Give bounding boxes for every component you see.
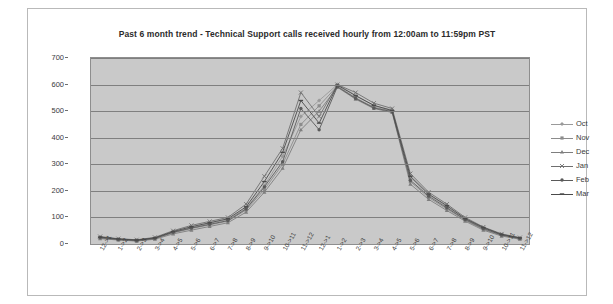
data-point — [372, 105, 376, 106]
legend-label: Oct — [576, 119, 588, 129]
legend-item-nov[interactable]: Nov — [551, 131, 609, 145]
legend-item-jan[interactable]: Jan — [551, 159, 609, 173]
data-point — [317, 122, 321, 123]
data-point — [408, 176, 412, 177]
y-axis-tick — [65, 190, 68, 191]
chart-title: Past 6 month trend - Technical Support c… — [28, 29, 586, 39]
chart-legend: OctNovDecJanFebMar — [551, 117, 609, 201]
chart-svg — [91, 58, 529, 244]
legend-label: Mar — [576, 189, 589, 199]
legend-marker-icon — [551, 189, 573, 199]
data-point — [560, 136, 563, 139]
data-point — [244, 206, 248, 207]
data-point — [98, 236, 102, 237]
y-axis-tick — [65, 84, 68, 85]
legend-label: Dec — [576, 147, 589, 157]
y-axis-tick — [65, 216, 68, 217]
data-point — [171, 231, 175, 232]
data-point — [560, 193, 564, 194]
y-axis-tick-label: 300 — [40, 159, 64, 168]
data-point — [481, 227, 485, 228]
data-point — [263, 185, 266, 188]
y-axis-tick-label: 700 — [40, 53, 64, 62]
y-axis-tick-label: 0 — [40, 239, 64, 248]
chart-frame: Past 6 month trend - Technical Support c… — [27, 8, 587, 296]
data-point — [560, 164, 564, 168]
y-axis-tick-label: 600 — [40, 79, 64, 88]
data-point — [318, 104, 321, 107]
gridline — [91, 85, 529, 86]
y-axis-tick-label: 100 — [40, 212, 64, 221]
data-point — [262, 181, 266, 182]
data-point — [354, 97, 357, 100]
data-point — [560, 122, 564, 126]
data-point — [281, 160, 284, 163]
data-point — [299, 123, 302, 126]
legend-marker-icon — [551, 161, 573, 171]
legend-item-feb[interactable]: Feb — [551, 173, 609, 187]
gridline — [91, 164, 529, 165]
data-point — [560, 178, 563, 181]
data-point — [518, 237, 522, 238]
data-point — [299, 107, 302, 110]
data-point — [317, 114, 321, 118]
legend-item-dec[interactable]: Dec — [551, 145, 609, 159]
data-point — [560, 150, 564, 154]
plot-area-wrapper: 0100200300400500600700 12->11->22->33->4… — [68, 57, 546, 263]
y-axis-tick-label: 500 — [40, 106, 64, 115]
y-axis-tick-label: 400 — [40, 132, 64, 141]
plot-area — [90, 57, 530, 245]
data-point — [280, 152, 284, 153]
data-point — [353, 95, 357, 96]
gridline — [91, 217, 529, 218]
legend-label: Nov — [576, 133, 589, 143]
gridline — [91, 111, 529, 112]
y-axis-tick — [65, 57, 68, 58]
gridline — [91, 58, 529, 59]
y-axis-tick — [65, 137, 68, 138]
legend-marker-icon — [551, 147, 573, 157]
data-point — [262, 174, 266, 178]
data-point — [372, 106, 375, 109]
data-point — [207, 222, 211, 223]
data-point — [299, 100, 303, 101]
data-point — [445, 205, 449, 206]
legend-label: Feb — [576, 175, 589, 185]
data-point — [153, 237, 157, 238]
legend-item-mar[interactable]: Mar — [551, 187, 609, 201]
legend-marker-icon — [551, 133, 573, 143]
y-axis: 0100200300400500600700 — [68, 57, 90, 243]
legend-marker-icon — [551, 119, 573, 129]
gridline — [91, 191, 529, 192]
legend-item-oct[interactable]: Oct — [551, 117, 609, 131]
x-axis: 12->11->22->33->44->55->66->77->88->99->… — [90, 246, 528, 286]
legend-label: Jan — [576, 161, 588, 171]
data-point — [426, 193, 430, 194]
data-point — [409, 179, 412, 182]
gridline — [91, 138, 529, 139]
data-point — [317, 128, 320, 131]
y-axis-tick — [65, 163, 68, 164]
data-point — [499, 234, 503, 235]
data-point — [189, 226, 193, 227]
y-axis-tick — [65, 243, 68, 244]
legend-marker-icon — [551, 175, 573, 185]
y-axis-tick-label: 200 — [40, 185, 64, 194]
y-axis-tick — [65, 110, 68, 111]
